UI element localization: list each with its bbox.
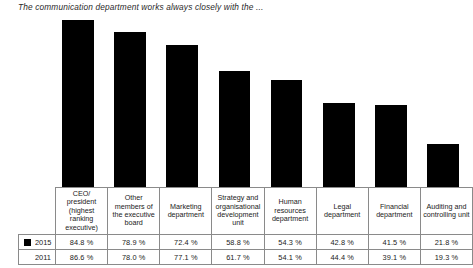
category-header-4: Strategy and organisational development … [212, 188, 264, 235]
value-cell: 54.3 % [264, 235, 316, 250]
bar-1 [62, 20, 94, 187]
value-cell: 84.8 % [56, 235, 108, 250]
value-cell: 19.3 % [420, 250, 472, 265]
value-cell: 78.9 % [108, 235, 160, 250]
bar-slot-1 [52, 14, 104, 187]
bar-slot-8 [417, 14, 469, 187]
bar-2 [114, 32, 146, 187]
category-header-7: Financial department [368, 188, 420, 235]
category-header-8: Auditing and controlling unit [420, 188, 472, 235]
bar-7 [375, 105, 407, 187]
table-corner-cell [19, 188, 56, 235]
bar-5 [271, 80, 303, 187]
bar-8 [427, 144, 459, 187]
series-label-cell-2015: 2015 [19, 235, 56, 250]
bar-3 [166, 45, 198, 187]
category-header-6: Legal department [316, 188, 368, 235]
value-cell: 78.0 % [108, 250, 160, 265]
legend-swatch-icon-2011 [24, 254, 31, 261]
value-cell: 58.8 % [212, 235, 264, 250]
value-cell: 44.4 % [316, 250, 368, 265]
table-header-row: CEO/ president (highest ranking executiv… [19, 188, 473, 235]
value-cell: 21.8 % [420, 235, 472, 250]
category-header-3: Marketing department [160, 188, 212, 235]
category-header-1: CEO/ president (highest ranking executiv… [56, 188, 108, 235]
chart-title: The communication department works alway… [18, 2, 263, 12]
plot-area [52, 14, 472, 187]
bar-6 [323, 103, 355, 187]
bar-slot-4 [208, 14, 260, 187]
table-row: 201584.8 %78.9 %72.4 %58.8 %54.3 %42.8 %… [19, 235, 473, 250]
value-cell: 39.1 % [368, 250, 420, 265]
bar-slot-2 [104, 14, 156, 187]
value-cell: 54.1 % [264, 250, 316, 265]
bar-slot-6 [313, 14, 365, 187]
value-cell: 42.8 % [316, 235, 368, 250]
data-table: CEO/ president (highest ranking executiv… [18, 187, 473, 265]
bar-slot-7 [365, 14, 417, 187]
legend-swatch-icon-2015 [24, 239, 31, 246]
bar-chart-figure: The communication department works alway… [0, 0, 473, 268]
category-header-2: Other members of the executive board [108, 188, 160, 235]
category-header-5: Human resources department [264, 188, 316, 235]
value-cell: 41.5 % [368, 235, 420, 250]
series-label-cell-2011: 2011 [19, 250, 56, 265]
value-cell: 86.6 % [56, 250, 108, 265]
bar-slot-5 [261, 14, 313, 187]
value-cell: 61.7 % [212, 250, 264, 265]
series-name-label: 2011 [35, 253, 56, 262]
bar-slot-3 [156, 14, 208, 187]
value-cell: 72.4 % [160, 235, 212, 250]
bar-4 [219, 71, 251, 187]
table-row: 201186.6 %78.0 %77.1 %61.7 %54.1 %44.4 %… [19, 250, 473, 265]
value-cell: 77.1 % [160, 250, 212, 265]
series-name-label: 2015 [35, 238, 56, 247]
